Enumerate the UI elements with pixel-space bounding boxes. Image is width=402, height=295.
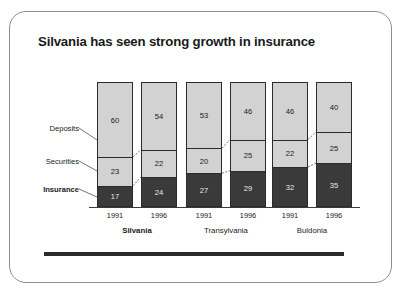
category-label-securities: Securities <box>0 157 79 166</box>
bar-segment-insurance: 27 <box>186 173 222 207</box>
segment-value-label: 60 <box>111 116 119 125</box>
year-label: 1991 <box>186 211 222 220</box>
segment-value-label: 53 <box>200 111 208 120</box>
bottom-rule <box>44 252 344 256</box>
category-label-deposits: Deposits <box>0 124 79 133</box>
bar: 462232 <box>272 82 308 207</box>
segment-value-label: 54 <box>155 112 163 121</box>
bar-segment-deposits: 40 <box>316 82 352 132</box>
segment-value-label: 32 <box>286 183 294 192</box>
bar: 542224 <box>141 82 177 207</box>
segment-value-label: 27 <box>200 186 208 195</box>
segment-value-label: 46 <box>244 107 252 116</box>
year-label: 1996 <box>316 211 352 220</box>
year-label: 1991 <box>272 211 308 220</box>
bar-segment-securities: 23 <box>97 157 133 186</box>
bar-segment-securities: 25 <box>316 132 352 163</box>
bar: 532027 <box>186 82 222 207</box>
bar-segment-securities: 22 <box>141 150 177 178</box>
segment-value-label: 40 <box>330 103 338 112</box>
segment-value-label: 29 <box>244 184 252 193</box>
year-label: 1996 <box>141 211 177 220</box>
bar-segment-deposits: 46 <box>272 82 308 140</box>
segment-value-label: 24 <box>155 188 163 197</box>
segment-value-label: 46 <box>286 107 294 116</box>
baseline <box>178 207 274 208</box>
bar: 462529 <box>230 82 266 207</box>
bar-segment-deposits: 54 <box>141 82 177 150</box>
bar-segment-insurance: 35 <box>316 163 352 207</box>
category-label-insurance: Insurance <box>0 185 79 194</box>
segment-value-label: 25 <box>244 151 252 160</box>
bar-segment-insurance: 32 <box>272 167 308 207</box>
segment-value-label: 20 <box>200 157 208 166</box>
segment-value-label: 23 <box>111 167 119 176</box>
bar-group: 602317542224 <box>97 82 177 207</box>
year-label: 1991 <box>97 211 133 220</box>
segment-value-label: 17 <box>111 192 119 201</box>
bar-group: 462232402535 <box>272 82 352 207</box>
bar-segment-deposits: 60 <box>97 82 133 157</box>
bar-segment-securities: 25 <box>230 140 266 171</box>
bar-segment-securities: 22 <box>272 140 308 168</box>
bar: 402535 <box>316 82 352 207</box>
bar-group: 532027462529 <box>186 82 266 207</box>
bar-segment-deposits: 53 <box>186 82 222 148</box>
stacked-bar-chart: Deposits Securities Insurance 6023175422… <box>0 0 402 295</box>
segment-value-label: 22 <box>286 149 294 158</box>
country-label: Buldonia <box>257 226 367 235</box>
baseline <box>264 207 360 208</box>
bar-segment-insurance: 24 <box>141 177 177 207</box>
bar-segment-insurance: 17 <box>97 186 133 207</box>
bar-segment-deposits: 46 <box>230 82 266 140</box>
year-label: 1996 <box>230 211 266 220</box>
bar-segment-insurance: 29 <box>230 171 266 207</box>
baseline <box>89 207 185 208</box>
bar-segment-securities: 20 <box>186 148 222 173</box>
segment-value-label: 22 <box>155 159 163 168</box>
bar: 602317 <box>97 82 133 207</box>
segment-value-label: 25 <box>330 144 338 153</box>
slide: Silvania has seen strong growth in insur… <box>0 0 402 295</box>
segment-value-label: 35 <box>330 181 338 190</box>
